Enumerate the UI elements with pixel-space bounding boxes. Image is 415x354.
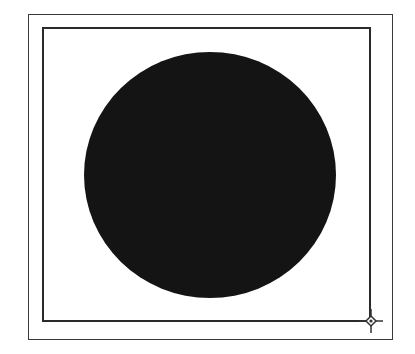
resize-handle[interactable] [359, 309, 383, 333]
filled-circle-shape[interactable] [84, 52, 336, 298]
diamond-crosshair-icon [359, 309, 383, 333]
